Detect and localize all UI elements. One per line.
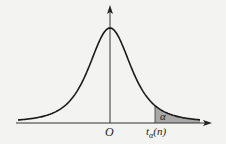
origin-label: O (105, 126, 114, 138)
density-curve (18, 28, 200, 120)
chart-canvas (0, 0, 226, 144)
alpha-label: α (160, 111, 166, 122)
critical-value-arg: (n) (153, 125, 166, 137)
critical-value-label: tα(n) (146, 126, 166, 140)
t-distribution-figure: O tα(n) α (0, 0, 226, 144)
